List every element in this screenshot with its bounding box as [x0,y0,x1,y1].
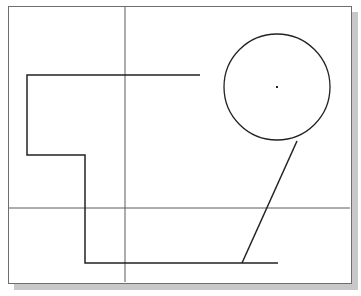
stepped-polyline[interactable] [27,75,278,263]
tangent-line[interactable] [242,141,297,263]
circle-center-point [276,86,278,88]
drawing-layer[interactable] [0,0,361,296]
